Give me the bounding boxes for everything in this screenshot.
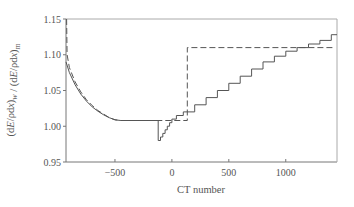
x-tick-label: 500 (221, 167, 236, 178)
y-axis-ticks: 0.951.001.051.101.15 (44, 14, 67, 168)
x-tick-label: 0 (169, 167, 174, 178)
y-tick-label: 1.00 (44, 121, 62, 132)
chart: −50005001000 0.951.001.051.101.15 CT num… (0, 0, 354, 207)
y-axis-label: (dE/ρdx)w / (dE/ρdx)m (5, 43, 22, 136)
series-layer (66, 19, 337, 141)
x-axis-label: CT number (177, 184, 225, 195)
y-tick-label: 1.05 (44, 85, 62, 96)
y-tick-label: 1.15 (44, 14, 62, 25)
x-tick-label: −500 (105, 167, 126, 178)
x-tick-label: 1000 (276, 167, 296, 178)
y-tick-label: 0.95 (44, 157, 62, 168)
series-solid-line (66, 35, 337, 141)
y-tick-label: 1.10 (44, 49, 62, 60)
plot-frame (66, 19, 337, 162)
